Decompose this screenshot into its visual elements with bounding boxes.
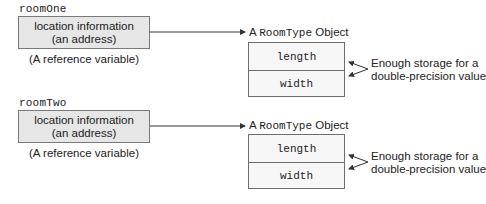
variable-name-roomtwo: roomTwo: [19, 97, 67, 109]
storage-note: Enough storage for a double-precision va…: [371, 150, 486, 176]
reference-box-roomtwo: location information (an address): [18, 110, 150, 143]
roomtype-object-box: length width: [248, 134, 345, 189]
variable-name-roomone: roomOne: [19, 3, 67, 15]
object-title-prefix: A: [249, 119, 256, 131]
field-length: length: [249, 135, 344, 162]
storage-note: Enough storage for a double-precision va…: [371, 57, 486, 83]
reference-caption: (A reference variable): [18, 53, 150, 65]
storage-note-line1: Enough storage for a: [371, 57, 486, 70]
storage-note-line2: double-precision value: [371, 70, 486, 83]
reference-box-line2: (an address): [52, 33, 117, 46]
field-length: length: [249, 43, 344, 70]
object-type-name: RoomType: [259, 120, 312, 132]
object-title: A RoomType Object: [249, 119, 349, 132]
reference-caption: (A reference variable): [18, 147, 150, 159]
object-type-name: RoomType: [259, 27, 312, 39]
field-width: width: [249, 162, 344, 188]
field-width: width: [249, 70, 344, 96]
roomtype-object-box: length width: [248, 42, 345, 97]
reference-box-line2: (an address): [52, 127, 117, 140]
object-title: A RoomType Object: [249, 26, 349, 39]
object-title-suffix: Object: [315, 119, 348, 131]
object-title-suffix: Object: [315, 26, 348, 38]
object-title-prefix: A: [249, 26, 256, 38]
storage-note-line1: Enough storage for a: [371, 150, 486, 163]
storage-note-line2: double-precision value: [371, 163, 486, 176]
reference-box-roomone: location information (an address): [18, 16, 150, 49]
reference-box-line1: location information: [34, 20, 134, 33]
reference-box-line1: location information: [34, 114, 134, 127]
